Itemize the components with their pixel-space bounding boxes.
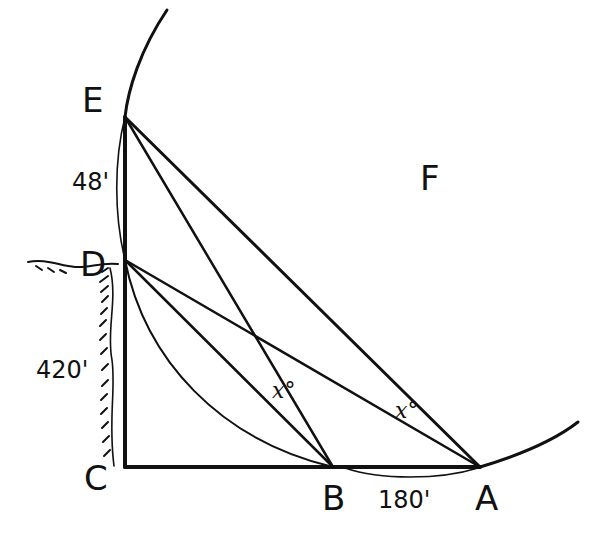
label-point-E: E <box>82 80 103 120</box>
arc-B-A <box>345 468 478 477</box>
label-point-D: D <box>80 244 106 284</box>
cliff-edge <box>110 268 114 466</box>
label-point-C: C <box>84 458 108 498</box>
large-arc-lower <box>480 422 578 467</box>
geometry-diagram: E D C B A F 48' 420' 180' x° x° <box>0 0 598 543</box>
label-point-A: A <box>475 478 498 518</box>
measure-BA: 180' <box>378 486 430 514</box>
measure-DC: 420' <box>36 356 88 384</box>
label-point-B: B <box>322 478 345 518</box>
measure-ED: 48' <box>72 168 109 196</box>
angle-label-B: x° <box>272 378 295 403</box>
angle-label-A: x° <box>395 398 418 423</box>
large-arc <box>125 10 167 117</box>
label-region-F: F <box>420 158 440 198</box>
